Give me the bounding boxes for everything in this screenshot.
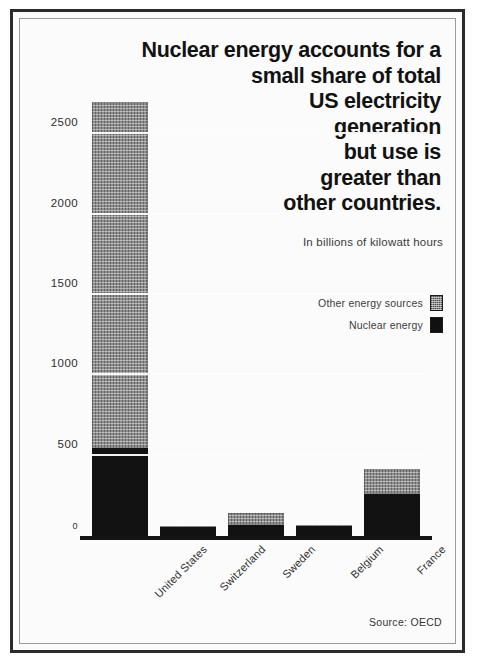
gridline xyxy=(86,213,426,215)
bar-segment-nuclear-energy xyxy=(296,526,352,536)
bar-segment-nuclear-energy xyxy=(228,525,284,536)
bar-segment-other-energy-sources xyxy=(92,102,148,448)
figure-frame: Nuclear energy accounts for a small shar… xyxy=(10,9,465,653)
bar-segment-other-energy-sources xyxy=(228,513,284,525)
bar-belgium[interactable] xyxy=(296,525,352,536)
bar-united-states[interactable] xyxy=(92,102,148,536)
bar-france[interactable] xyxy=(364,469,420,537)
y-axis-tick-label: 1000 xyxy=(51,357,78,369)
bar-segment-nuclear-energy xyxy=(160,527,216,536)
bar-sweden[interactable] xyxy=(228,513,284,536)
gridline xyxy=(86,373,426,375)
gridline xyxy=(86,293,426,295)
x-axis-label-switzerland: Switzerland xyxy=(218,543,268,593)
y-axis-tick-label: 0 xyxy=(73,521,78,531)
y-axis-tick-label: 500 xyxy=(58,438,78,450)
solid-black-swatch-icon xyxy=(430,317,443,333)
bar-chart: 05001000150020002500 United StatesSwitze… xyxy=(86,86,426,536)
bar-segment-other-energy-sources xyxy=(364,469,420,495)
x-axis-baseline xyxy=(80,536,432,540)
x-axis-label-sweden: Sweden xyxy=(280,543,317,580)
bar-segment-nuclear-energy xyxy=(92,448,148,536)
y-axis-tick-label: 1500 xyxy=(51,277,78,289)
bar-segment-nuclear-energy xyxy=(364,494,420,536)
x-axis-label-united-states: United States xyxy=(152,543,209,600)
x-axis-label-belgium: Belgium xyxy=(348,543,386,581)
figure-content: Nuclear energy accounts for a small shar… xyxy=(13,12,462,650)
x-axis-label-france: France xyxy=(415,543,449,577)
hatched-gray-swatch-icon xyxy=(430,295,443,311)
y-axis-tick-label: 2500 xyxy=(51,116,78,128)
title-line-1: Nuclear energy accounts for a xyxy=(51,38,441,64)
gridline xyxy=(86,132,426,134)
bar-switzerland[interactable] xyxy=(160,526,216,536)
gridline xyxy=(86,454,426,456)
y-axis-tick-label: 2000 xyxy=(51,197,78,209)
plot-canvas: 05001000150020002500 United StatesSwitze… xyxy=(86,86,426,536)
source-note: Source: OECD xyxy=(369,616,442,628)
